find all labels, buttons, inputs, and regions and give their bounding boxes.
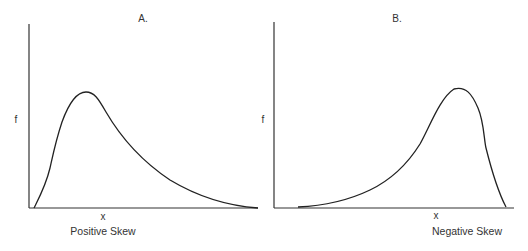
skew-diagram: A. f x Positive Skew B. f x Negative Ske… <box>0 0 528 251</box>
panel-b-x-label: x <box>434 210 439 221</box>
panel-a-title: A. <box>138 13 147 24</box>
panel-b: B. f x Negative Skew <box>262 13 514 237</box>
panel-a-caption: Positive Skew <box>70 225 136 237</box>
panel-a-y-label: f <box>15 114 18 125</box>
panel-a-distribution-curve <box>34 92 258 208</box>
panel-b-distribution-curve <box>298 88 506 207</box>
panel-b-caption: Negative Skew <box>432 225 502 237</box>
panel-a: A. f x Positive Skew <box>15 13 258 237</box>
panel-b-y-label: f <box>262 114 265 125</box>
panel-b-title: B. <box>392 13 401 24</box>
panel-a-x-label: x <box>101 211 106 222</box>
